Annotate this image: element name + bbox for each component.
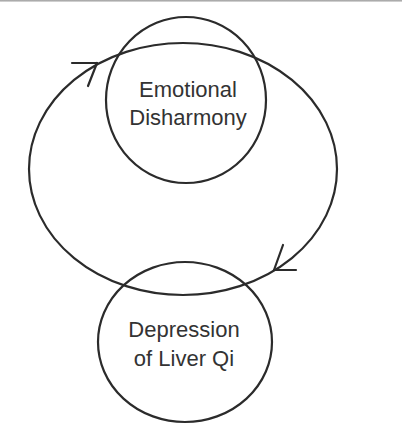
node-label-line-1: Depression [128, 317, 239, 342]
node-emotional-disharmony: Emotional Disharmony [106, 17, 266, 183]
node-depression-of-liver-qi: Depression of Liver Qi [98, 262, 272, 422]
cycle-diagram: Emotional Disharmony Depression of Liver… [0, 0, 414, 444]
node-label-line-1: Emotional [139, 77, 237, 102]
node-label-line-2: Disharmony [129, 105, 246, 130]
node-circle [98, 262, 272, 422]
node-label-line-2: of Liver Qi [134, 346, 234, 371]
